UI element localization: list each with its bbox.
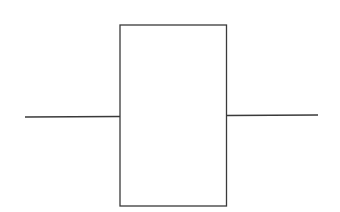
diagram-canvas	[0, 0, 340, 212]
block-rectangle	[120, 25, 227, 206]
left-lead-line	[25, 117, 120, 118]
right-lead-line	[227, 115, 319, 116]
